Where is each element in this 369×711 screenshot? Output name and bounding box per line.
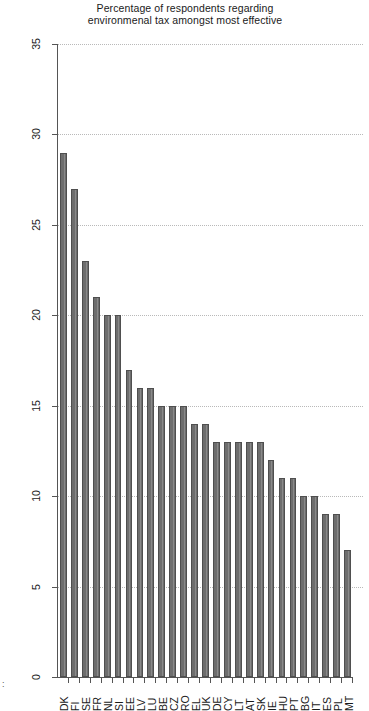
bar-RO — [180, 406, 187, 677]
bar-HU — [279, 478, 286, 677]
category-label-ES: ES — [321, 681, 333, 711]
bar-EE — [126, 370, 133, 677]
category-label-PL: PL — [332, 681, 344, 711]
bar-LV — [137, 388, 144, 677]
bar-IE — [268, 460, 275, 677]
bar-series — [58, 44, 353, 677]
bar-FR — [93, 297, 100, 677]
bar-BG — [300, 496, 307, 677]
value-tick — [52, 496, 58, 497]
bar-SI — [115, 315, 122, 677]
value-tick — [52, 587, 58, 588]
value-tick-label: 35 — [30, 24, 42, 64]
bar-LT — [235, 442, 242, 677]
bar-LU — [148, 388, 155, 677]
value-axis-line — [57, 44, 58, 677]
bar-AT — [246, 442, 253, 677]
bar-UK — [202, 424, 209, 677]
value-tick — [52, 44, 58, 45]
value-tick-label: 10 — [30, 476, 42, 516]
category-label-BE: BE — [157, 681, 169, 711]
plot-area: 05101520253035 DKFISEFRNLSIEELVLUBECZROE… — [58, 44, 353, 677]
category-label-IT: IT — [310, 681, 322, 711]
y-axis-title-line-1: Percentage of respondents regarding — [88, 2, 283, 15]
bar-PL — [333, 514, 340, 677]
category-label-CZ: CZ — [168, 681, 180, 711]
bar-IT — [311, 496, 318, 677]
bar-ES — [322, 514, 329, 677]
value-tick-label: 20 — [30, 295, 42, 335]
bar-MT — [344, 550, 351, 677]
value-tick-label: 0 — [30, 657, 42, 697]
bar-NL — [104, 315, 111, 677]
bar-PT — [290, 478, 297, 677]
bar-DK — [60, 153, 67, 677]
value-tick — [52, 406, 58, 407]
bar-SK — [257, 442, 264, 677]
y-axis-title: Percentage of respondents regarding envi… — [0, 0, 369, 28]
value-tick-label: 5 — [30, 567, 42, 607]
value-tick-label: 30 — [30, 114, 42, 154]
bar-CY — [224, 442, 231, 677]
category-label-RO: RO — [179, 681, 191, 711]
value-tick-label: 25 — [30, 205, 42, 245]
value-tick — [52, 134, 58, 135]
value-tick — [52, 225, 58, 226]
bar-BE — [158, 406, 165, 677]
bar-DE — [213, 442, 220, 677]
bar-EL — [191, 424, 198, 677]
bar-FI — [71, 189, 78, 677]
value-tick — [52, 315, 58, 316]
category-label-MT: MT — [343, 681, 355, 711]
bar-SE — [82, 261, 89, 677]
y-axis-title-line-2: environmenal tax amongst most effective — [88, 14, 283, 27]
caption-marker: : — [2, 679, 5, 689]
value-tick-label: 15 — [30, 386, 42, 426]
bar-CZ — [169, 406, 176, 677]
value-tick — [52, 677, 58, 678]
